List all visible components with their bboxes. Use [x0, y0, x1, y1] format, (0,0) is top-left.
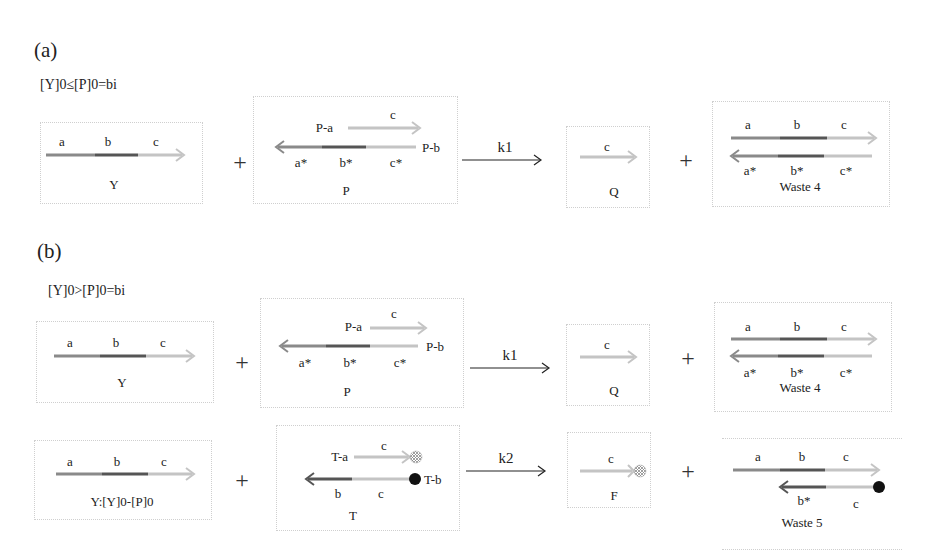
domain-label: b	[105, 135, 112, 149]
domain-label: c*	[840, 366, 852, 380]
domain-label: a*	[744, 164, 756, 178]
panel-a-condition: [Y]0≤[P]0=bi	[40, 77, 117, 93]
strand-name-T-b: T-b	[424, 473, 442, 487]
strand-name-P-a: P-a	[345, 320, 362, 334]
strand-name-P-b: P-b	[422, 141, 440, 155]
domain-label: c*	[390, 156, 402, 170]
species-name-T: T	[349, 509, 357, 523]
plus-sign: +	[233, 150, 247, 174]
domain-label: c	[391, 307, 397, 321]
domain-label: c	[378, 487, 384, 501]
domain-label: b	[794, 118, 801, 132]
domain-label: b	[113, 336, 120, 350]
domain-label: c	[608, 452, 614, 466]
panel-a-label: (a)	[34, 38, 57, 63]
box-F	[567, 432, 651, 508]
domain-label: b	[335, 487, 342, 501]
plus-sign: +	[235, 468, 249, 492]
domain-label: c	[381, 439, 387, 453]
species-name-Q: Q	[609, 384, 618, 398]
reaction-arrow-k2	[466, 466, 545, 476]
domain-label: b	[799, 450, 806, 464]
domain-label: b*	[798, 494, 811, 508]
domain-label: b*	[791, 366, 804, 380]
domain-label: c	[390, 108, 396, 122]
panel-b-label: (b)	[37, 239, 62, 264]
domain-label: a	[745, 118, 751, 132]
domain-label: c*	[840, 164, 852, 178]
rate-constant-k1: k1	[503, 347, 518, 364]
rate-constant-k2: k2	[499, 450, 514, 467]
domain-label: a	[67, 336, 73, 350]
species-name-P: P	[343, 385, 350, 399]
domain-label: a	[59, 135, 65, 149]
box-waste5	[722, 438, 902, 550]
species-name-Y: Y	[109, 178, 118, 192]
domain-label: b*	[340, 156, 353, 170]
domain-label: c	[153, 135, 159, 149]
strand-name-T-a: T-a	[331, 450, 348, 464]
domain-label: b*	[791, 164, 804, 178]
domain-label: b*	[344, 356, 357, 370]
domain-label: a	[755, 450, 761, 464]
box-waste4-b1	[714, 302, 892, 412]
plus-sign: +	[681, 459, 695, 483]
reaction-arrow-k1-b	[470, 363, 549, 373]
panel-b-condition: [Y]0>[P]0=bi	[48, 283, 125, 299]
plus-sign: +	[681, 346, 695, 370]
species-name-waste4: Waste 4	[779, 180, 820, 194]
domain-label: c	[161, 455, 167, 469]
species-name-Q: Q	[609, 185, 618, 199]
domain-label: b	[794, 320, 801, 334]
species-name-P: P	[342, 184, 349, 198]
domain-label: a*	[744, 366, 756, 380]
species-name-waste5: Waste 5	[781, 516, 822, 530]
domain-label: a	[745, 320, 751, 334]
domain-label: b	[114, 455, 121, 469]
domain-label: c	[604, 338, 610, 352]
domain-label: a	[67, 455, 73, 469]
species-name-Y: Y	[117, 376, 126, 390]
domain-label: a*	[295, 156, 307, 170]
species-name-F: F	[610, 489, 617, 503]
domain-label: a*	[299, 356, 311, 370]
domain-label: c	[841, 320, 847, 334]
species-name-Y-excess: Y:[Y]0-[P]0	[90, 495, 153, 509]
reaction-arrow-k1-a	[462, 155, 541, 165]
domain-label: c	[843, 450, 849, 464]
domain-label: c	[853, 497, 859, 511]
domain-label: c*	[394, 356, 406, 370]
domain-label: c	[160, 336, 166, 350]
species-name-waste4: Waste 4	[779, 381, 820, 395]
plus-sign: +	[679, 148, 693, 172]
plus-sign: +	[235, 350, 249, 374]
box-Y-b1	[36, 321, 214, 403]
strand-name-P-a: P-a	[316, 121, 333, 135]
rate-constant-k1: k1	[498, 139, 513, 156]
strand-name-P-b: P-b	[426, 340, 444, 354]
domain-label: c	[604, 140, 610, 154]
domain-label: c	[841, 118, 847, 132]
